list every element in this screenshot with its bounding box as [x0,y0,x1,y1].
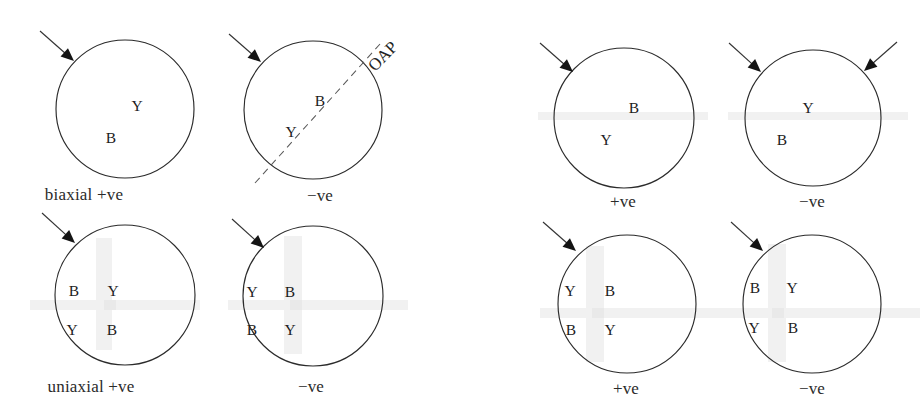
optic-letter: Y [600,132,611,148]
optic-letter: Y [802,100,813,116]
arrow-9-shaft [731,222,755,244]
arrow-5-icon [864,42,897,71]
circle-8 [743,235,881,373]
arrow-5-shaft [872,42,897,64]
arrow-1-icon [40,31,74,61]
optic-letter: B [777,132,787,148]
optic-letter: Y [604,322,615,338]
optic-letter: B [566,322,576,338]
arrow-2-shaft [229,34,253,55]
arrows-layer [40,31,897,251]
caption-uniaxial-right-neg: −ve [799,380,825,397]
arrow-2-icon [229,34,261,62]
arrow-3-shaft [540,43,565,65]
caption-uniaxial-neg: −ve [298,378,324,395]
arrow-1-head [61,48,74,61]
caption-biaxial-right-neg: −ve [799,193,825,210]
arrow-4-shaft [729,43,753,65]
optic-letter: Y [66,322,77,338]
optic-letter: B [315,93,325,109]
optic-letter: B [107,322,117,338]
arrow-1-shaft [40,31,66,54]
arrow-3-icon [540,43,573,72]
arrow-6-shaft [42,213,67,236]
diagram-canvas [0,0,923,413]
arrow-7-shaft [232,219,256,241]
optic-letter: Y [564,283,575,299]
arrow-9-icon [731,222,763,251]
arrow-5-head [864,58,877,71]
arrow-2-head [248,49,261,62]
optic-letter: B [69,283,79,299]
caption-biaxial-pos: biaxial +ve [45,186,123,203]
circle-6 [243,226,383,366]
optic-letter: Y [246,284,257,300]
optic-letter: Y [786,280,797,296]
arrow-4-icon [729,43,761,72]
circle-1 [56,40,194,178]
optic-letter: B [285,284,295,300]
optic-letter: B [750,280,760,296]
arrow-8-shaft [543,222,568,244]
optic-letter: B [788,320,798,336]
oap-dashed-line [255,44,380,183]
optic-letter: B [247,322,257,338]
circle-2 [244,41,382,179]
optic-letter: B [605,283,615,299]
arrow-8-head [563,238,576,251]
optic-letter: B [106,130,116,146]
arrow-8-icon [543,222,576,251]
figure-root: YBBYBYYBBYYBYBBYYBBYBYYB biaxial +ve−ve+… [0,0,923,413]
optic-letter: B [629,100,639,116]
oap-trace-layer [255,44,380,183]
optic-letter: Y [285,124,296,140]
optic-letter: Y [748,320,759,336]
arrow-3-head [560,59,573,72]
caption-uniaxial-pos: uniaxial +ve [47,378,134,395]
optic-letter: Y [107,283,118,299]
caption-biaxial-right-pos: +ve [610,193,636,210]
optic-letter: Y [284,322,295,338]
optic-letter: Y [131,98,142,114]
arrow-6-icon [42,213,75,243]
arrow-7-icon [232,219,264,248]
caption-uniaxial-right-pos: +ve [613,380,639,397]
caption-biaxial-neg: −ve [307,187,333,204]
circle-7 [558,235,696,373]
